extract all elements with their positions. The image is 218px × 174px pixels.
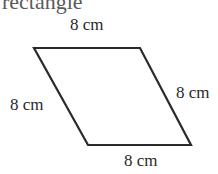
side-label-top: 8 cm bbox=[70, 16, 104, 33]
side-label-right: 8 cm bbox=[176, 84, 210, 101]
side-label-left: 8 cm bbox=[10, 96, 44, 113]
side-label-bottom: 8 cm bbox=[124, 152, 158, 169]
rhombus-shape bbox=[34, 48, 191, 145]
